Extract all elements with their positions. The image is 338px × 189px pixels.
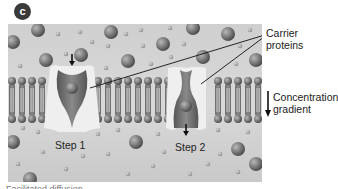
step2-label: Step 2 bbox=[175, 141, 205, 153]
carrier-proteins-label-line1: Carrier bbox=[266, 27, 303, 39]
carrier-proteins-label-line2: proteins bbox=[266, 39, 303, 51]
concentration-gradient-label-line1: Concentration bbox=[273, 91, 338, 103]
concentration-gradient-label-line2: gradient bbox=[273, 103, 338, 115]
carrier-proteins-label: Carrier proteins bbox=[266, 27, 303, 51]
figure-badge: c bbox=[14, 3, 31, 20]
concentration-gradient-label: Concentration gradient bbox=[273, 91, 338, 115]
concentration-gradient-arrow-icon bbox=[265, 91, 269, 117]
figure-caption: Facilitated diffusion bbox=[6, 184, 83, 189]
step1-label: Step 1 bbox=[55, 139, 85, 151]
carrier-protein-step2 bbox=[166, 67, 206, 136]
membrane-diagram bbox=[8, 24, 262, 182]
